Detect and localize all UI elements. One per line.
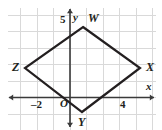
vertex-label-w: W	[88, 12, 99, 24]
figure-canvas	[0, 0, 162, 130]
y-axis-tick-label-5: 5	[60, 14, 66, 25]
vertex-label-y: Y	[78, 116, 85, 128]
y-axis-label: y	[73, 12, 78, 23]
x-axis-tick-label-negative-2: –2	[31, 99, 42, 110]
x-axis-tick-label-4: 4	[120, 99, 126, 110]
vertex-label-x: X	[146, 61, 154, 73]
coordinate-plane-figure: 5 y x –2 4 O W X Y Z	[0, 0, 162, 130]
origin-label: O	[60, 98, 68, 109]
vertex-label-z: Z	[12, 61, 19, 73]
x-axis-label: x	[146, 81, 152, 92]
